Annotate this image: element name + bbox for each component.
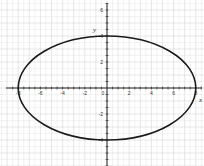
ellipse-plot: -8-6-4-202468 -4-2246 x y: [0, 0, 204, 166]
y-tick-label: 2: [100, 59, 103, 65]
y-axis-label: y: [92, 26, 97, 34]
x-tick-label: 2: [128, 90, 131, 96]
x-tick-label: -6: [38, 90, 43, 96]
y-tick-label: -2: [99, 111, 104, 117]
y-tick-label: 6: [100, 7, 103, 13]
x-tick-label: 6: [172, 90, 175, 96]
x-axis-label: x: [198, 96, 203, 104]
axes: [6, 3, 202, 166]
x-tick-label: 4: [150, 90, 153, 96]
x-tick-label: -2: [83, 90, 88, 96]
x-tick-label: 0: [102, 90, 105, 96]
x-tick-label: -4: [60, 90, 65, 96]
